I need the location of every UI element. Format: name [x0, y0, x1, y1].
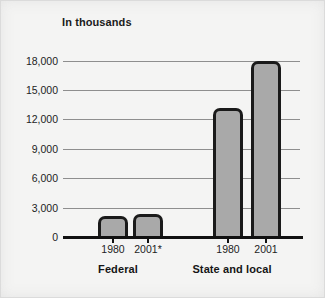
chart-title: In thousands: [62, 16, 132, 28]
plot-area: [63, 46, 300, 237]
x-tick-label-2001: 2001: [254, 243, 277, 255]
bar-state-and-local-1980: [213, 108, 243, 237]
x-tick-label-1980: 1980: [101, 243, 124, 255]
bar-federal-1980: [98, 216, 128, 237]
y-tick-label-18000: 18,000: [26, 55, 58, 67]
y-tick-label-15000: 15,000: [26, 84, 58, 96]
x-axis-baseline: [63, 236, 303, 239]
bar-state-and-local-2001: [251, 61, 281, 237]
group-label-federal: Federal: [98, 263, 138, 275]
y-tick-label-12000: 12,000: [26, 113, 58, 125]
bar-federal-2001: [133, 214, 163, 237]
bar-chart-figure: In thousands 03,0006,0009,00012,00015,00…: [0, 0, 325, 298]
group-label-state-and-local: State and local: [192, 263, 271, 275]
x-tick-label-1980: 1980: [216, 243, 239, 255]
y-tick-label-3000: 3,000: [32, 202, 58, 214]
y-tick-label-9000: 9,000: [32, 143, 58, 155]
x-tick-label-2001: 2001*: [134, 243, 161, 255]
y-tick-label-0: 0: [52, 231, 58, 243]
y-tick-label-6000: 6,000: [32, 172, 58, 184]
y-axis-labels: 03,0006,0009,00012,00015,00018,000: [0, 46, 58, 237]
